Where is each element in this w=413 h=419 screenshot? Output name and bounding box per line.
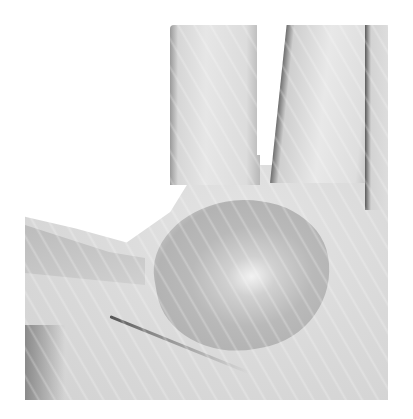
palm-photograph bbox=[25, 25, 388, 400]
palm-edge-shadow bbox=[25, 325, 65, 400]
ring-finger-edge bbox=[365, 25, 388, 210]
finger-gap bbox=[257, 25, 271, 155]
index-finger bbox=[170, 25, 260, 185]
